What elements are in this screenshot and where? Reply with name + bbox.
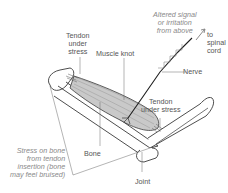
nerve-label: Nerve bbox=[183, 68, 202, 76]
muscle-knot-label: Muscle knot bbox=[96, 50, 134, 58]
tendon-top-left-label: Tendon under stress bbox=[66, 32, 90, 56]
forearm-diagram: Altered signal or irritation from above … bbox=[0, 0, 228, 193]
to-spinal-cord-label: to spinal cord bbox=[207, 31, 226, 55]
joint-knob bbox=[137, 148, 159, 162]
tendon-right-line-2: under stress bbox=[141, 106, 181, 114]
tendon-right-label: Tendon under stress bbox=[141, 98, 181, 114]
altered-signal-line-3: from above bbox=[153, 27, 197, 35]
stress-on-bone-label: Stress on bone from tendon insertion (bo… bbox=[10, 147, 65, 179]
spinal-cord-arrow bbox=[196, 30, 204, 40]
altered-signal-arrow bbox=[158, 44, 182, 68]
tendon-top-left-line-3: stress bbox=[66, 48, 90, 56]
to-spinal-cord-line-3: cord bbox=[207, 47, 226, 55]
bone-label: Bone bbox=[84, 150, 101, 158]
stress-on-bone-line-4: may feel bruised) bbox=[10, 171, 65, 179]
altered-signal-label: Altered signal or irritation from above bbox=[153, 11, 197, 35]
joint-label: Joint bbox=[135, 178, 150, 186]
